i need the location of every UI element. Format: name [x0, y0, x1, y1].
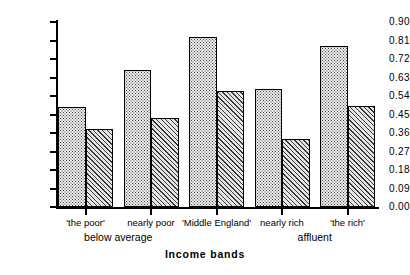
x-tick-mark: [347, 207, 349, 215]
x-axis-line: [56, 207, 379, 209]
plot-area: [57, 22, 378, 207]
bar-chart: 0.000.090.180.270.360.450.540.630.720.81…: [0, 0, 410, 275]
bar: [320, 46, 348, 207]
bar: [189, 37, 217, 207]
x-tick-mark: [281, 207, 283, 215]
x-tick-mark: [85, 207, 87, 215]
x-axis-title: Income bands: [0, 248, 410, 260]
x-group-label: affluent: [260, 231, 370, 243]
x-category-label: 'the rich': [303, 217, 393, 228]
bar: [255, 89, 283, 207]
bar: [217, 91, 245, 207]
x-tick-mark: [150, 207, 152, 215]
bar: [86, 129, 114, 207]
x-tick-mark: [216, 207, 218, 215]
x-group-label: below average: [63, 231, 173, 243]
bar: [124, 70, 152, 207]
bar: [58, 107, 86, 207]
bar: [151, 118, 179, 207]
bar: [282, 139, 310, 207]
bar: [348, 106, 376, 207]
